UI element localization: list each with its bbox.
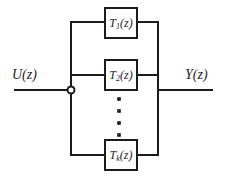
block-label-arg: (z) (120, 68, 133, 82)
block-label-tk: Tk(z) (110, 149, 133, 161)
block-label-t2: T2(z) (109, 69, 132, 81)
ellipsis-dot (117, 133, 121, 137)
block-label-arg: (z) (120, 16, 133, 30)
block-label-sub: 1 (116, 22, 120, 31)
ellipsis-dot (117, 121, 121, 125)
block-label-base: T (109, 68, 116, 82)
block-diagram: U(z) Y(z) T1(z) T2(z) Tk(z) (0, 0, 226, 181)
block-label-base: T (109, 16, 116, 30)
block-label-sub: 2 (116, 74, 120, 83)
junction-node-icon (68, 87, 75, 94)
ellipsis-dot (117, 97, 121, 101)
block-label-sub: k (116, 154, 120, 163)
input-signal-label: U(z) (12, 68, 37, 82)
block-label-arg: (z) (120, 148, 133, 162)
block-label-wrap-t1: T1(z) (104, 7, 138, 39)
output-signal-label: Y(z) (185, 68, 208, 82)
block-label-t1: T1(z) (109, 17, 132, 29)
ellipsis-dot (117, 109, 121, 113)
block-label-wrap-tk: Tk(z) (104, 139, 138, 171)
block-label-wrap-t2: T2(z) (104, 59, 138, 91)
